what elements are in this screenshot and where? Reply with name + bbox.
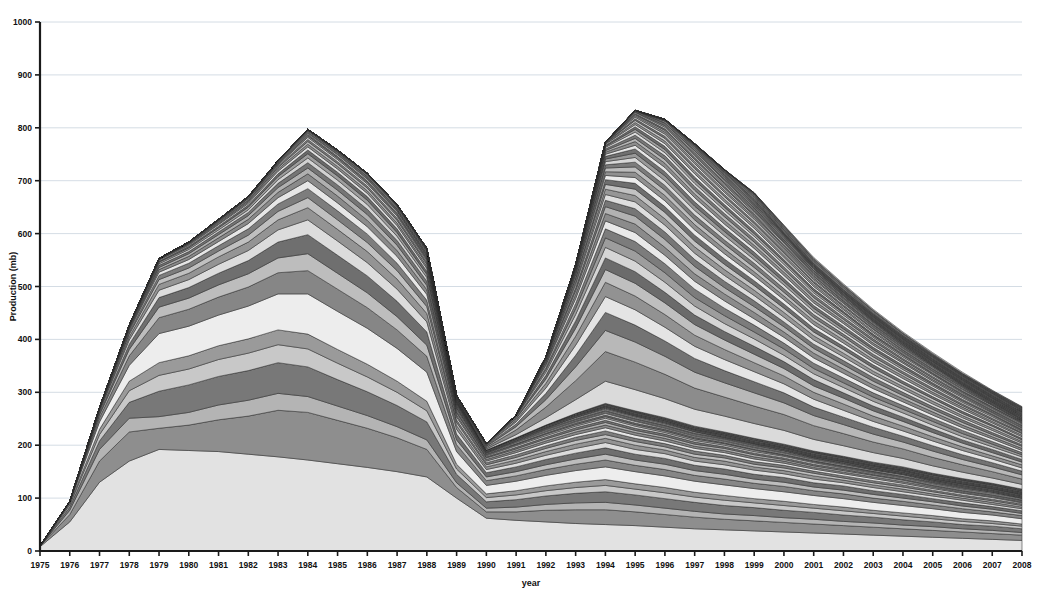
- x-tick-label: 1980: [179, 560, 198, 570]
- x-tick-label: 1985: [328, 560, 347, 570]
- chart-canvas: 0100200300400500600700800900100019751976…: [0, 0, 1047, 596]
- x-tick-label: 1983: [269, 560, 288, 570]
- x-tick-label: 2006: [953, 560, 972, 570]
- y-tick-label: 900: [18, 70, 32, 80]
- y-tick-label: 200: [18, 440, 32, 450]
- x-tick-label: 1993: [566, 560, 585, 570]
- x-tick-label: 1991: [507, 560, 526, 570]
- y-tick-label: 100: [18, 493, 32, 503]
- stacked-area-chart: 0100200300400500600700800900100019751976…: [0, 0, 1047, 596]
- x-tick-label: 2001: [804, 560, 823, 570]
- x-tick-label: 1995: [626, 560, 645, 570]
- x-tick-label: 1990: [477, 560, 496, 570]
- x-tick-label: 1986: [358, 560, 377, 570]
- x-tick-label: 1975: [31, 560, 50, 570]
- x-tick-label: 1997: [685, 560, 704, 570]
- x-tick-label: 1979: [150, 560, 169, 570]
- y-axis-title: Production (mb): [8, 252, 18, 322]
- stacked-areas-group: [40, 110, 1022, 551]
- x-tick-label: 2000: [774, 560, 793, 570]
- x-tick-label: 1992: [536, 560, 555, 570]
- x-tick-label: 1981: [209, 560, 228, 570]
- y-tick-label: 1000: [13, 17, 32, 27]
- x-tick-label: 1982: [239, 560, 258, 570]
- x-axis-title: year: [522, 578, 541, 588]
- x-tick-label: 2008: [1013, 560, 1032, 570]
- x-tick-label: 1999: [745, 560, 764, 570]
- x-tick-label: 2007: [983, 560, 1002, 570]
- y-tick-label: 400: [18, 334, 32, 344]
- x-tick-label: 2003: [864, 560, 883, 570]
- x-tick-label: 1987: [388, 560, 407, 570]
- x-tick-label: 1996: [655, 560, 674, 570]
- x-tick-label: 1988: [417, 560, 436, 570]
- x-tick-label: 1998: [715, 560, 734, 570]
- x-tick-label: 1994: [596, 560, 615, 570]
- x-tick-label: 2002: [834, 560, 853, 570]
- y-tick-label: 700: [18, 176, 32, 186]
- x-tick-label: 2005: [923, 560, 942, 570]
- x-tick-label: 1978: [120, 560, 139, 570]
- x-tick-label: 1984: [298, 560, 317, 570]
- y-tick-label: 500: [18, 282, 32, 292]
- y-tick-label: 0: [27, 546, 32, 556]
- y-tick-label: 800: [18, 123, 32, 133]
- x-tick-label: 1976: [60, 560, 79, 570]
- y-tick-label: 600: [18, 229, 32, 239]
- x-tick-label: 1989: [447, 560, 466, 570]
- x-tick-label: 1977: [90, 560, 109, 570]
- y-tick-label: 300: [18, 387, 32, 397]
- x-tick-label: 2004: [894, 560, 913, 570]
